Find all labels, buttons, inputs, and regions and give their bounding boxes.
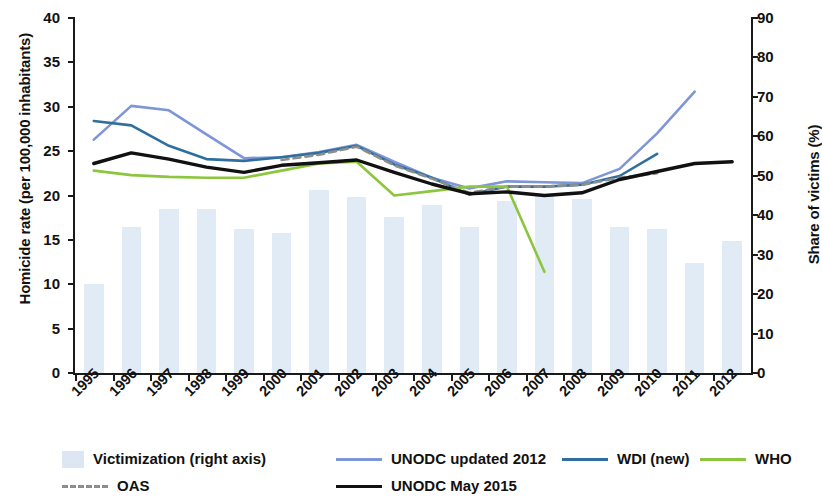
legend-item-label: WDI (new) xyxy=(617,448,690,470)
series-lines xyxy=(75,18,751,373)
y-axis-left-tick-label: 25 xyxy=(30,144,60,158)
y-axis-right-tick-mark xyxy=(751,214,758,216)
y-axis-right-tick-label: 40 xyxy=(757,208,791,222)
plot-area xyxy=(73,18,753,375)
y-axis-left-tick-label: 35 xyxy=(30,55,60,69)
y-axis-right-tick-label: 0 xyxy=(757,366,791,380)
legend-dashed-line-swatch xyxy=(62,485,108,488)
y-axis-left-tick-mark xyxy=(68,17,75,19)
y-axis-left-tick-label: 15 xyxy=(30,233,60,247)
y-axis-right-ticks: 9080706050403020100 xyxy=(757,0,797,500)
y-axis-left-tick-mark xyxy=(68,239,75,241)
y-axis-left-tick-mark xyxy=(68,328,75,330)
y-axis-right-tick-label: 90 xyxy=(757,11,791,25)
y-axis-left-tick-label: 40 xyxy=(30,11,60,25)
y-axis-right-tick-mark xyxy=(751,293,758,295)
y-axis-right-tick-label: 20 xyxy=(757,287,791,301)
y-axis-left-tick-label: 30 xyxy=(30,100,60,114)
legend-item[interactable]: Victimization (right axis) xyxy=(62,448,266,470)
y-axis-left-ticks: 4035302520151050 xyxy=(28,0,60,500)
y-axis-left-tick-mark xyxy=(68,283,75,285)
y-axis-right-tick-label: 60 xyxy=(757,129,791,143)
y-axis-left-tick-label: 20 xyxy=(30,189,60,203)
y-axis-left-tick-label: 0 xyxy=(30,366,60,380)
y-axis-left-tick-mark xyxy=(68,61,75,63)
y-axis-right-tick-label: 50 xyxy=(757,169,791,183)
legend-line-swatch xyxy=(700,458,746,461)
y-axis-left-tick-mark xyxy=(68,106,75,108)
y-axis-left-tick-label: 10 xyxy=(30,277,60,291)
legend-item[interactable]: OAS xyxy=(62,475,150,497)
plot-inner xyxy=(75,18,751,373)
legend-item-label: WHO xyxy=(755,448,792,470)
y-axis-right-tick-label: 30 xyxy=(757,248,791,262)
legend-item-label: UNODC May 2015 xyxy=(391,475,517,497)
y-axis-right-tick-mark xyxy=(751,372,758,374)
legend-item-label: Victimization (right axis) xyxy=(93,448,266,470)
legend-item[interactable]: UNODC May 2015 xyxy=(336,475,517,497)
y-axis-right-tick-mark xyxy=(751,96,758,98)
series-line xyxy=(94,153,732,196)
y-axis-left-tick-mark xyxy=(68,372,75,374)
chart-legend: Victimization (right axis)UNODC updated … xyxy=(62,448,807,500)
y-axis-right-tick-label: 80 xyxy=(757,50,791,64)
legend-line-swatch xyxy=(336,458,382,461)
legend-item[interactable]: UNODC updated 2012 xyxy=(336,448,546,470)
y-axis-right-tick-mark xyxy=(751,254,758,256)
legend-item-label: OAS xyxy=(117,475,150,497)
legend-item[interactable]: WDI (new) xyxy=(562,448,690,470)
legend-line-swatch xyxy=(336,485,382,488)
y-axis-right-tick-label: 10 xyxy=(757,327,791,341)
y-axis-right-tick-mark xyxy=(751,333,758,335)
legend-bar-swatch xyxy=(62,451,84,468)
y-axis-right-tick-mark xyxy=(751,17,758,19)
x-axis-labels: 1995199619971998199920002001200220032004… xyxy=(73,378,749,438)
y-axis-right-tick-mark xyxy=(751,56,758,58)
legend-item[interactable]: WHO xyxy=(700,448,792,470)
y-axis-left-tick-label: 5 xyxy=(30,322,60,336)
legend-line-swatch xyxy=(562,458,608,461)
y-axis-right-tick-mark xyxy=(751,175,758,177)
y-axis-left-tick-mark xyxy=(68,195,75,197)
legend-item-label: UNODC updated 2012 xyxy=(391,448,546,470)
series-line xyxy=(94,162,545,272)
y-axis-right-title: Share of victims (%) xyxy=(805,85,822,305)
y-axis-right-tick-label: 70 xyxy=(757,90,791,104)
y-axis-right-tick-mark xyxy=(751,135,758,137)
y-axis-left-tick-mark xyxy=(68,150,75,152)
